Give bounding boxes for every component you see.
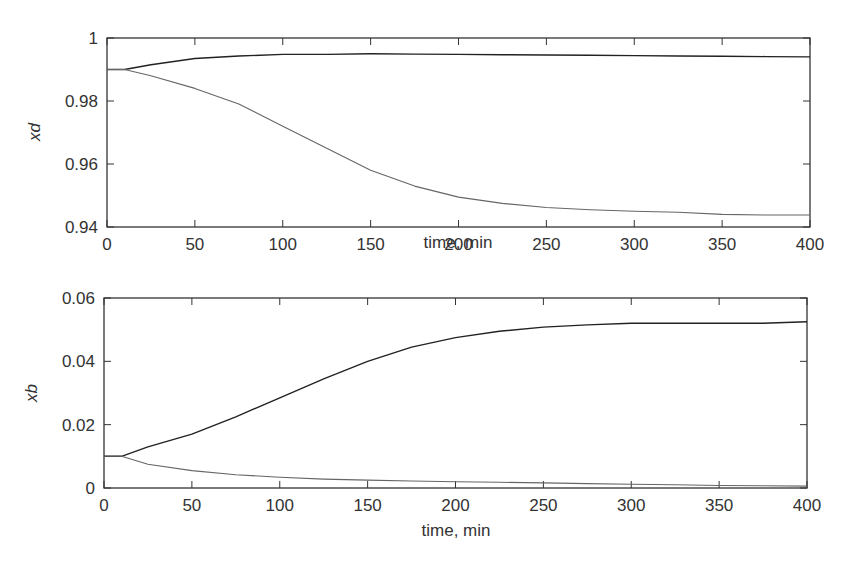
y-axis-label-bottom: xb xyxy=(22,384,41,403)
plot-frame xyxy=(107,38,810,227)
x-tick-label: 200 xyxy=(441,496,469,515)
x-axis-label-top: time, min xyxy=(424,233,493,252)
series-line-lower xyxy=(104,456,807,486)
x-tick-label: 350 xyxy=(708,235,736,254)
x-tick-label: 150 xyxy=(356,235,384,254)
y-tick-label: 0.02 xyxy=(62,416,95,435)
x-tick-label: 50 xyxy=(182,496,201,515)
y-tick-label: 0.96 xyxy=(65,155,98,174)
series-line-upper xyxy=(107,54,810,70)
y-tick-label: 0 xyxy=(86,479,95,498)
x-tick-label: 400 xyxy=(796,235,824,254)
x-tick-label: 150 xyxy=(353,496,381,515)
x-tick-label: 300 xyxy=(617,496,645,515)
x-tick-label: 250 xyxy=(532,235,560,254)
plot-frame xyxy=(104,298,807,488)
y-tick-label: 0.94 xyxy=(65,218,98,237)
y-tick-label: 0.06 xyxy=(62,289,95,308)
x-tick-label: 50 xyxy=(185,235,204,254)
chart-figure: 0501001502002503003504000.940.960.981 05… xyxy=(0,0,845,572)
y-axis-label-top: xd xyxy=(25,122,44,142)
series-line-upper xyxy=(104,322,807,457)
x-tick-label: 100 xyxy=(269,235,297,254)
y-tick-label: 0.04 xyxy=(62,352,95,371)
x-axis-label-bottom: time, min xyxy=(422,521,491,540)
xd-plot: 0501001502002503003504000.940.960.981 xyxy=(65,29,824,254)
x-tick-label: 0 xyxy=(102,235,111,254)
xb-plot: 05010015020025030035040000.020.040.06 xyxy=(62,289,821,515)
x-tick-label: 350 xyxy=(705,496,733,515)
series-line-lower xyxy=(107,70,810,216)
x-tick-label: 400 xyxy=(793,496,821,515)
y-tick-label: 1 xyxy=(89,29,98,48)
x-tick-label: 100 xyxy=(266,496,294,515)
x-tick-label: 250 xyxy=(529,496,557,515)
x-tick-label: 300 xyxy=(620,235,648,254)
y-tick-label: 0.98 xyxy=(65,92,98,111)
x-tick-label: 0 xyxy=(99,496,108,515)
